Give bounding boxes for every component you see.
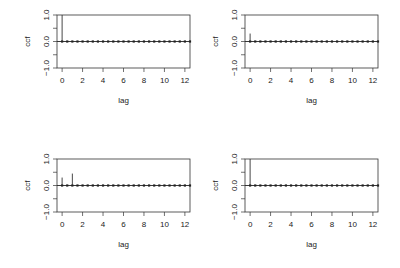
x-tick-label: 2 [80,76,85,85]
x-tick-label: 2 [268,76,273,85]
y-tick-label: −1.0 [42,204,51,220]
y-axis: −1.00.01.0 [230,153,245,220]
x-tick-label: 10 [160,220,169,229]
x-tick-label: 0 [60,76,65,85]
y-tick-label: −1.0 [230,60,239,76]
y-axis: −1.00.01.0 [230,9,245,76]
x-tick-label: 12 [368,76,377,85]
x-axis: 024681012 [60,68,190,85]
x-tick-label: 2 [80,220,85,229]
y-axis: −1.00.01.0 [42,153,57,220]
x-tick-label: 8 [142,76,147,85]
y-tick-label: 0.0 [42,179,51,191]
x-tick-label: 10 [348,220,357,229]
y-tick-label: −1.0 [230,204,239,220]
x-axis: 024681012 [60,212,190,229]
x-tick-label: 4 [289,76,294,85]
x-axis: 024681012 [248,68,378,85]
x-axis-label: lag [118,240,129,249]
x-tick-label: 8 [330,220,335,229]
x-tick-label: 0 [248,220,253,229]
ccf-panel-bottom-left: −1.00.01.0ccf024681012lag [0,144,200,268]
x-tick-label: 10 [160,76,169,85]
x-axis-label: lag [306,96,317,105]
ccf-panel-bottom-right: −1.00.01.0ccf024681012lag [188,144,388,268]
x-tick-label: 6 [309,220,314,229]
y-axis-label: ccf [23,36,32,47]
x-tick-label: 6 [309,76,314,85]
ccf-panel-top-left: −1.00.01.0ccf024681012lag [0,0,200,134]
x-tick-label: 0 [248,76,253,85]
x-tick-label: 8 [330,76,335,85]
ccf-panel-top-right: −1.00.01.0ccf024681012lag [188,0,388,134]
x-tick-label: 4 [101,220,106,229]
x-axis-label: lag [118,96,129,105]
x-tick-label: 10 [348,76,357,85]
y-tick-label: 0.0 [230,35,239,47]
y-axis-label: ccf [211,180,220,191]
y-axis-label: ccf [211,36,220,47]
y-tick-label: 0.0 [230,179,239,191]
y-tick-label: 1.0 [42,9,51,21]
y-tick-label: 0.0 [42,35,51,47]
x-tick-label: 4 [101,76,106,85]
y-axis-label: ccf [23,180,32,191]
y-tick-label: 1.0 [230,153,239,165]
x-tick-label: 2 [268,220,273,229]
x-tick-label: 0 [60,220,65,229]
y-tick-label: 1.0 [230,9,239,21]
x-tick-label: 8 [142,220,147,229]
x-tick-label: 12 [368,220,377,229]
y-tick-label: 1.0 [42,153,51,165]
y-tick-label: −1.0 [42,60,51,76]
x-tick-label: 4 [289,220,294,229]
x-tick-label: 6 [121,220,126,229]
ccf-spikes [62,174,72,186]
x-tick-label: 6 [121,76,126,85]
x-axis-label: lag [306,240,317,249]
y-axis: −1.00.01.0 [42,9,57,76]
x-axis: 024681012 [248,212,378,229]
